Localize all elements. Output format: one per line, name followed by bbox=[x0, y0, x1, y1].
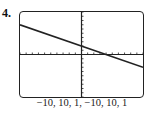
window-settings-caption: −10, 10, 1, −10, 10, 1 bbox=[19, 97, 145, 108]
problem-number: 4. bbox=[2, 6, 11, 21]
plot-area bbox=[20, 12, 143, 97]
graphing-calculator-screen bbox=[19, 11, 144, 98]
